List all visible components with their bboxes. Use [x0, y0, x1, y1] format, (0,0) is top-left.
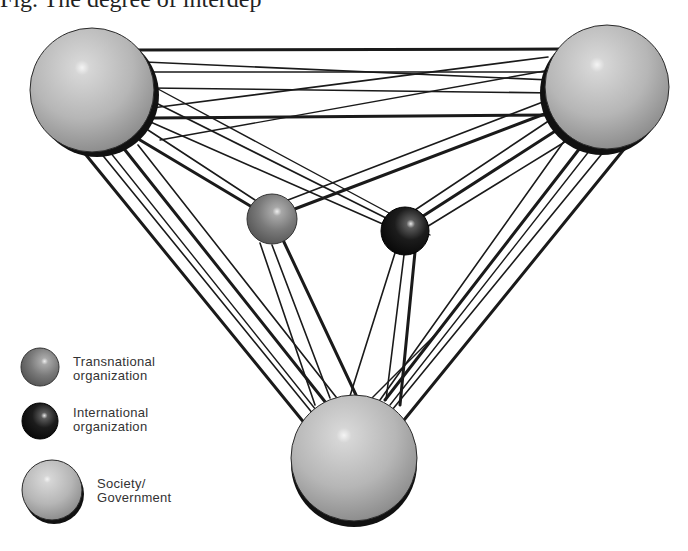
legend-label-line1: Society/	[97, 477, 172, 491]
legend-label-line2: organization	[73, 420, 148, 434]
legend-label-line1: Transnational	[73, 355, 155, 369]
transnational-node	[247, 194, 297, 244]
legend-transnational-icon	[21, 348, 59, 386]
network-diagram	[0, 0, 688, 551]
legend-label-line1: International	[73, 406, 148, 420]
legend-international-icon	[22, 403, 58, 439]
society-node-top-left	[30, 28, 159, 157]
legend-society-icon	[22, 460, 84, 524]
legend-label-line2: organization	[73, 369, 155, 383]
society-node-top-right	[540, 25, 669, 155]
society-node-bottom	[291, 395, 417, 527]
legend-item-society: Society/ Government	[97, 477, 172, 505]
international-node	[381, 207, 429, 255]
legend-item-international: International organization	[73, 406, 148, 434]
legend-label-line2: Government	[97, 491, 172, 505]
legend-item-transnational: Transnational organization	[73, 355, 155, 383]
